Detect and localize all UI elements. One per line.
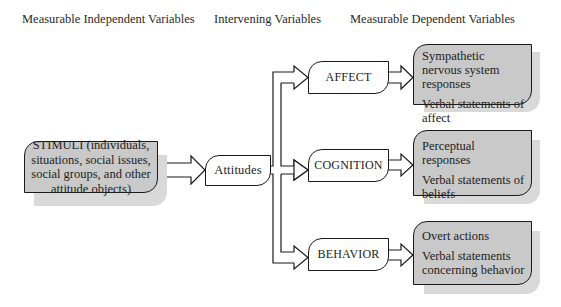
arrow-into-behavior bbox=[294, 246, 308, 269]
affect-box: AFFECT bbox=[308, 61, 389, 94]
cognition-response-2: Verbal statements of beliefs bbox=[422, 173, 525, 201]
stimuli-box: STIMULI (individuals, situations, social… bbox=[24, 141, 158, 193]
affect-response-2: Verbal statements of affect bbox=[422, 97, 525, 125]
arrow-stimuli-to-attitudes bbox=[166, 156, 205, 184]
attitudes-box: Attitudes bbox=[205, 155, 271, 186]
behavior-response-1: Overt actions bbox=[422, 229, 525, 243]
arrow-into-affect bbox=[294, 66, 308, 89]
stimuli-label: STIMULI (individuals, situations, social… bbox=[29, 138, 153, 196]
cognition-label: COGNITION bbox=[314, 158, 382, 173]
behavior-box: BEHAVIOR bbox=[308, 238, 389, 271]
arrow-cognition-to-responses bbox=[388, 154, 413, 176]
cognition-box: COGNITION bbox=[308, 149, 389, 182]
branch-outer bbox=[270, 72, 294, 263]
behavior-responses-box: Overt actions Verbal statements concerni… bbox=[413, 221, 532, 285]
arrow-affect-to-responses bbox=[388, 66, 413, 89]
affect-responses-box: Sympathetic nervous system responses Ver… bbox=[413, 44, 532, 105]
cognition-responses-box: Perceptual responses Verbal statements o… bbox=[413, 130, 532, 196]
behavior-response-2: Verbal statements concerning behavior bbox=[422, 249, 525, 277]
attitudes-label: Attitudes bbox=[214, 163, 262, 178]
arrow-behavior-to-responses bbox=[388, 244, 413, 266]
affect-label: AFFECT bbox=[326, 70, 372, 85]
affect-response-1: Sympathetic nervous system responses bbox=[422, 49, 525, 91]
behavior-label: BEHAVIOR bbox=[317, 247, 379, 262]
cognition-response-1: Perceptual responses bbox=[422, 139, 525, 167]
